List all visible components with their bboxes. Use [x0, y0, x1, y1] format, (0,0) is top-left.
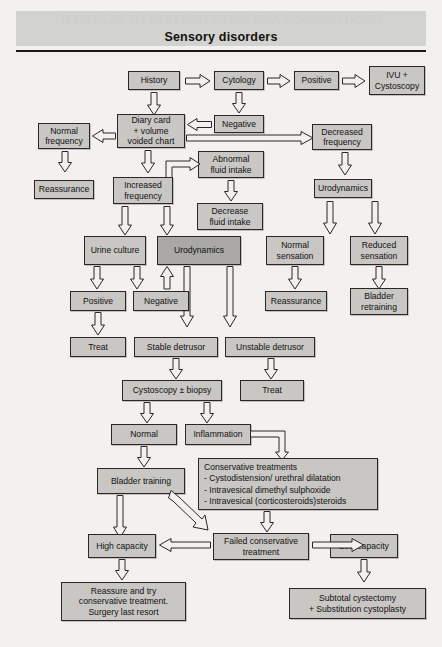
arrow-increased-frequency-to-urodynamics: [160, 206, 174, 236]
node-abnormal-fluid-intake[interactable]: Abnormal fluid intake: [198, 151, 264, 178]
arrow-failed-to-high-capacity: [159, 538, 211, 552]
arrow-urodynamics-to-normal-sensation: [323, 201, 337, 235]
node-decrease-fluid-intake[interactable]: Decrease fluid intake: [197, 203, 263, 230]
node-bladder-retraining[interactable]: Bladder retraining: [350, 288, 408, 315]
node-treat-culture[interactable]: Treat: [70, 337, 126, 357]
arrow-normal-to-bladder-training: [137, 446, 151, 468]
node-reassurance-left[interactable]: Reassurance: [34, 180, 94, 199]
arrow-unstable-detrusor-to-treat: [264, 358, 278, 380]
arrow-increased-frequency-to-urine-culture: [118, 206, 132, 236]
arrow-diary-to-normal-frequency: [92, 129, 116, 143]
arrow-cytology-to-positive: [267, 74, 291, 88]
conservative-item-3: - Intravesical (corticosteroids)steroids: [204, 496, 372, 507]
node-increased-frequency[interactable]: Increased frequency: [113, 177, 173, 204]
arrow-inflammation-to-conservative: [250, 427, 292, 461]
node-ivu-cystoscopy[interactable]: IVU + Cystoscopy: [369, 66, 425, 95]
arrow-bladder-training-to-failed-conservative: [168, 490, 218, 532]
arrow-urodynamics-to-unstable-detrusor: [223, 266, 237, 328]
node-failed-conservative[interactable]: Failed conservative treatment: [213, 533, 309, 560]
node-reduced-sensation[interactable]: Reduced sensation: [350, 236, 408, 265]
node-urodynamics-right[interactable]: Urodynamics: [314, 179, 372, 198]
node-inflammation[interactable]: Inflammation: [185, 424, 251, 445]
node-normal-frequency[interactable]: Normal frequency: [38, 123, 90, 149]
node-cytology[interactable]: Cytology: [214, 71, 264, 90]
arrow-positive-to-treat: [91, 312, 105, 336]
arrow-cystoscopy-to-inflammation: [200, 402, 214, 424]
arrow-diary-to-decreased-frequency: [186, 131, 314, 145]
ghost-header-text: URODYNAMICS AND INVESTIGATION OF BLADDER: [16, 13, 426, 27]
node-reassure-surgery[interactable]: Reassure and try conservative treatment.…: [61, 582, 186, 621]
node-culture-negative[interactable]: Negative: [133, 291, 189, 311]
node-history[interactable]: History: [128, 71, 180, 90]
arrow-failed-to-low-capacity: [312, 538, 364, 552]
arrow-negative-to-urodynamics-up: [160, 266, 174, 290]
conservative-item-1: - Cystodistension/ urethral dilatation: [204, 473, 372, 484]
arrow-urine-culture-to-negative: [130, 266, 144, 290]
node-diary-card[interactable]: Diary card + volume voided chart: [117, 114, 185, 148]
arrow-bladder-training-to-high-capacity: [113, 495, 127, 539]
arrow-urine-culture-to-positive: [90, 266, 104, 290]
arrow-stable-detrusor-to-cystoscopy: [169, 358, 183, 380]
arrow-normal-frequency-to-reassurance: [58, 151, 72, 173]
flowchart-page: URODYNAMICS AND INVESTIGATION OF BLADDER…: [0, 0, 442, 647]
node-conservative-treatments[interactable]: Conservative treatments - Cystodistensio…: [198, 458, 378, 510]
node-normal-biopsy[interactable]: Normal: [111, 424, 177, 445]
arrow-decreased-frequency-to-urodynamics: [338, 152, 352, 176]
arrow-reduced-sensation-to-bladder-retraining: [372, 266, 386, 290]
node-cystoscopy-biopsy[interactable]: Cystoscopy ± biopsy: [122, 380, 222, 401]
node-decreased-frequency[interactable]: Decreased frequency: [312, 124, 372, 150]
node-treat-unstable[interactable]: Treat: [240, 380, 304, 401]
arrow-history-to-diary: [147, 92, 161, 116]
arrow-cytology-to-negative: [232, 92, 246, 114]
arrow-conservative-to-failed: [260, 511, 274, 533]
node-subtotal-cystectomy[interactable]: Subtotal cystectomy + Substitution cysto…: [289, 588, 426, 619]
node-reassurance-sensation[interactable]: Reassurance: [265, 291, 327, 311]
node-positive-cytology[interactable]: Positive: [294, 71, 339, 90]
node-urine-culture[interactable]: Urine culture: [84, 236, 146, 265]
arrow-low-capacity-to-cystectomy: [357, 559, 371, 583]
page-title: Sensory disorders: [16, 30, 426, 44]
arrow-urodynamics-to-reduced-sensation: [368, 201, 382, 235]
arrow-high-capacity-to-reassure: [115, 559, 129, 581]
arrow-negative-to-diary: [187, 118, 212, 131]
arrow-cystoscopy-to-normal: [140, 402, 154, 424]
arrow-positive-to-ivu: [342, 74, 366, 88]
node-unstable-detrusor[interactable]: Unstable detrusor: [225, 337, 315, 357]
arrow-diary-to-increased-frequency: [141, 150, 155, 174]
conservative-heading: Conservative treatments: [204, 462, 372, 473]
conservative-item-2: - Intravesical dimethyl sulphoxide: [204, 485, 372, 496]
node-normal-sensation[interactable]: Normal sensation: [266, 236, 324, 265]
arrow-history-to-cytology: [185, 74, 211, 88]
node-culture-positive[interactable]: Positive: [70, 291, 126, 311]
arrow-abnormal-to-decrease-intake: [224, 180, 238, 202]
node-urodynamics-center[interactable]: Urodynamics: [157, 236, 241, 265]
header-rule: [16, 50, 426, 52]
node-stable-detrusor[interactable]: Stable detrusor: [134, 337, 218, 357]
arrow-normal-sensation-to-reassurance: [288, 266, 302, 290]
node-high-capacity[interactable]: High capacity: [88, 534, 156, 558]
